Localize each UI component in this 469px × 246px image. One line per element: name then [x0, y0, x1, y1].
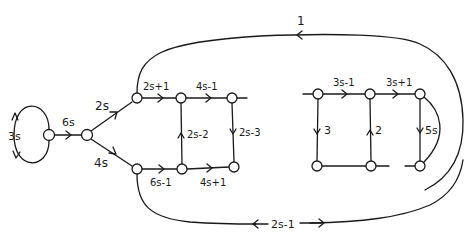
node-n9 — [365, 89, 375, 99]
node-n10 — [415, 89, 425, 99]
arrow-down-icon — [13, 151, 20, 158]
edge-label-3s-1: 3s-1 — [333, 77, 355, 88]
edge-label-self-loop: 3s — [8, 130, 21, 143]
edge-6s — [55, 131, 81, 139]
edge-label-4s+1: 4s+1 — [200, 177, 226, 188]
node-n5 — [132, 164, 142, 174]
edge-label-2s: 2s — [95, 99, 109, 113]
edge-4s+1 — [187, 164, 229, 172]
node-n2 — [132, 93, 142, 103]
edge-5s — [417, 99, 423, 161]
edge-label-outer-1: 1 — [297, 14, 305, 28]
node-n0 — [44, 130, 55, 141]
edge-2s-2 — [178, 103, 184, 164]
edge-label-2s+1: 2s+1 — [143, 81, 169, 92]
node-n7 — [229, 162, 239, 172]
node-n13 — [415, 161, 425, 171]
edge-label-3: 3 — [324, 124, 331, 137]
node-n12 — [366, 161, 376, 171]
edge-3s-1 — [323, 90, 365, 98]
node-n3 — [176, 93, 186, 103]
edge-2s+1 — [142, 94, 176, 102]
edge-label-4s-1: 4s-1 — [196, 81, 218, 92]
node-n1 — [82, 130, 93, 141]
edge-label-2s-3: 2s-3 — [239, 127, 261, 138]
arrow-diag-down-icon — [109, 147, 116, 154]
edge-label-6s-1: 6s-1 — [150, 177, 172, 188]
edge-label-6s: 6s — [62, 116, 75, 129]
edge-label-4s: 4s — [94, 156, 108, 170]
edge-label-2s-2: 2s-2 — [187, 129, 209, 140]
edge-4s-1 — [186, 94, 227, 102]
edge-label-2: 2 — [375, 124, 382, 137]
edge-label-5s: 5s — [425, 124, 438, 137]
arrow-up-icon — [12, 113, 18, 120]
signal-flow-graph: 3s 6s 2s 4s 2s+1 4s-1 6s-1 4s+1 — [0, 0, 469, 246]
node-n4 — [227, 93, 237, 103]
edge-6s-1 — [142, 165, 177, 173]
edge-3s+1 — [375, 90, 415, 98]
node-n6 — [177, 164, 187, 174]
node-n11 — [312, 161, 322, 171]
edge-label-3s+1: 3s+1 — [386, 77, 412, 88]
edge-2s-3 — [230, 103, 236, 162]
edge-3 — [314, 99, 320, 161]
node-n8 — [313, 89, 323, 99]
edge-label-outer-2s-1: 2s-1 — [271, 218, 295, 231]
edge-2 — [367, 99, 373, 161]
